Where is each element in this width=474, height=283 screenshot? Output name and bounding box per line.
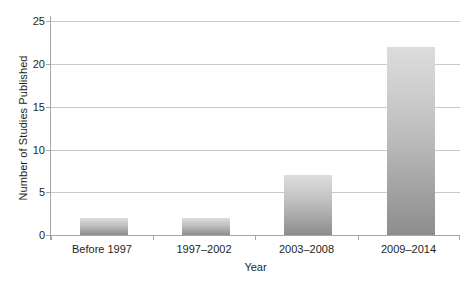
- y-tick-label-0: 0: [5, 230, 45, 241]
- x-tick-4: [459, 235, 460, 240]
- bar-1997-2002: [182, 218, 230, 235]
- y-tick-label-10: 10: [5, 145, 45, 156]
- x-tick-2: [255, 235, 256, 240]
- x-tick-3: [358, 235, 359, 240]
- y-axis-ticks: 25 20 15 10 5 0: [0, 21, 45, 235]
- x-tick-1: [153, 235, 154, 240]
- x-tick-label-1997-2002: 1997–2002: [153, 243, 255, 256]
- x-tick-label-2009-2014: 2009–2014: [358, 243, 459, 256]
- y-tick-label-5: 5: [5, 187, 45, 198]
- x-tick-label-2003-2008: 2003–2008: [255, 243, 358, 256]
- y-tick-label-25: 25: [5, 16, 45, 27]
- x-tick-0: [51, 235, 52, 240]
- bars-layer: [51, 21, 460, 235]
- bar-2003-2008: [284, 175, 332, 235]
- y-tick-label-15: 15: [5, 102, 45, 113]
- x-axis-title: Year: [51, 261, 460, 274]
- x-axis-labels: Before 1997 1997–2002 2003–2008 2009–201…: [51, 243, 460, 259]
- bar-2009-2014: [387, 47, 435, 235]
- bar-before-1997: [80, 218, 128, 235]
- bar-chart: Number of Studies Published 25 20 15 10 …: [0, 0, 474, 283]
- y-tick-label-20: 20: [5, 59, 45, 70]
- x-tick-label-before-1997: Before 1997: [51, 243, 153, 256]
- x-axis-ticks: [51, 235, 460, 241]
